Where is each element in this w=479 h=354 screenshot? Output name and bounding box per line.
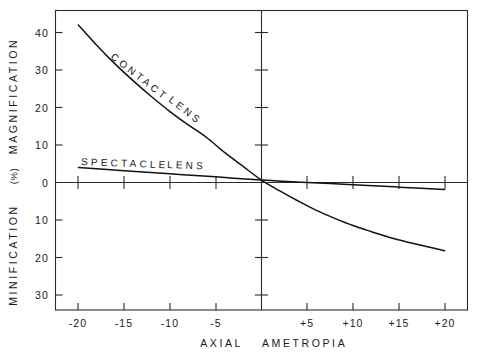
x-tick-label-n20: -20 <box>69 317 87 329</box>
y-tick-label-10: 10 <box>35 139 49 151</box>
y-tick-label-n20: 20 <box>35 252 49 264</box>
x-tick-label-n15: -15 <box>115 317 133 329</box>
x-tick-label-n5: -5 <box>210 317 222 329</box>
x-axis-title-axial: AXIAL <box>200 337 243 349</box>
y-tick-label-0: 0 <box>42 177 49 189</box>
figure-canvas: 40 30 20 10 0 10 20 30 -20 -15 -10 -5 +5… <box>0 0 479 354</box>
y-axis-units-percent: (%) <box>8 168 19 184</box>
y-tick-label-30: 30 <box>35 64 49 76</box>
y-axis-ticks-left <box>56 33 63 296</box>
x-tick-label-p5: +5 <box>300 317 314 329</box>
curve-label-spectacle-word2: LENS <box>167 159 206 171</box>
ametropia-magnification-chart: 40 30 20 10 0 10 20 30 -20 -15 -10 -5 +5… <box>0 0 479 354</box>
y-axis-title-magnification: MAGNIFICATION <box>7 38 19 154</box>
y-tick-label-40: 40 <box>35 27 49 39</box>
y-tick-label-n10: 10 <box>35 214 49 226</box>
x-axis-title-ametropia: AMETROPIA <box>262 337 347 349</box>
y-tick-label-20: 20 <box>35 102 49 114</box>
curve-label-contact-word1: CONTACT <box>109 51 171 103</box>
curve-label-contact-lens: CONTACT LENS <box>109 51 204 127</box>
curve-label-contact-word2: LENS <box>167 94 204 127</box>
x-tick-label-p10: +10 <box>342 317 363 329</box>
x-tick-label-p15: +15 <box>388 317 409 329</box>
y-tick-label-n30: 30 <box>35 289 49 301</box>
y-axis-title-minification: MINIFICATION <box>7 204 19 306</box>
x-tick-label-p20: +20 <box>434 317 455 329</box>
x-tick-label-n10: -10 <box>161 317 179 329</box>
